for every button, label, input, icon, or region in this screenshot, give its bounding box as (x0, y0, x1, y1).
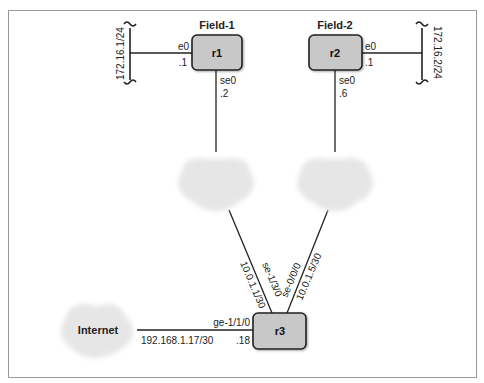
r2-se0-addr: .6 (339, 88, 348, 99)
r3-ge-name: ge-1/1/0 (213, 317, 250, 328)
router-r1-label: r1 (212, 47, 222, 59)
router-r2-label: r2 (330, 47, 340, 59)
r1-e0-addr: .1 (179, 57, 188, 68)
r1-se0-name: se0 (220, 75, 237, 86)
r1-se0-addr: .2 (220, 88, 229, 99)
router-r1[interactable]: r1 (192, 35, 242, 70)
cloud-2 (297, 158, 373, 211)
internet-label: Internet (78, 324, 119, 336)
r2-e0-addr: .1 (365, 57, 374, 68)
lan-right-subnet: 172.16.2/24 (432, 26, 443, 79)
internet-link-subnet: 192.168.1.17/30 (141, 335, 214, 346)
r2-se0-name: se0 (339, 75, 356, 86)
r3-ge-addr: .18 (236, 335, 250, 346)
router-r3[interactable]: r3 (253, 313, 306, 349)
cloud-1 (178, 158, 254, 211)
lan-left-subnet: 172.16.1/24 (115, 27, 126, 80)
field-1-title: Field-1 (199, 19, 234, 31)
network-diagram: 172.16.1/24 172.16.2/24 Internet r1 Fiel… (0, 0, 484, 383)
r1-e0-name: e0 (178, 41, 190, 52)
router-r3-label: r3 (275, 325, 285, 337)
r2-e0-name: e0 (365, 41, 377, 52)
field-2-title: Field-2 (317, 19, 352, 31)
router-r2[interactable]: r2 (309, 35, 362, 70)
